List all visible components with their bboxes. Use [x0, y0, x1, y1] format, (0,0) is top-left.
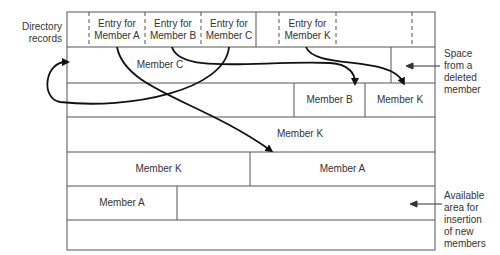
label-line: records [14, 33, 62, 45]
label-line: deleted [444, 72, 481, 84]
available-area-label: Available area for insertion of new memb… [444, 190, 486, 250]
entry-member-c: Entry for Member C [201, 18, 257, 42]
block-member-b: Member B [294, 94, 365, 106]
block-member-a-2: Member A [67, 197, 177, 209]
entry-line: Member K [279, 30, 336, 42]
block-member-a: Member A [250, 163, 435, 175]
block-member-c: Member C [100, 59, 220, 71]
entry-member-a: Entry for Member A [89, 18, 145, 42]
entry-line: Member A [89, 30, 145, 42]
label-line: member [444, 84, 481, 96]
entry-line: Entry for [201, 18, 257, 30]
entry-line: Entry for [279, 18, 336, 30]
label-line: Available [444, 190, 486, 202]
outer-box [67, 12, 435, 250]
label-line: insertion [444, 214, 486, 226]
block-member-k-2: Member K [260, 128, 340, 140]
entry-member-b: Entry for Member B [145, 18, 201, 42]
entry-line: Entry for [145, 18, 201, 30]
entry-line: Member B [145, 30, 201, 42]
entry-line: Entry for [89, 18, 145, 30]
block-member-k-3: Member K [67, 163, 250, 175]
label-line: Directory [14, 21, 62, 33]
label-line: from a [444, 60, 481, 72]
space-deleted-label: Space from a deleted member [444, 48, 481, 96]
label-line: area for [444, 202, 486, 214]
label-line: of new [444, 226, 486, 238]
label-line: members [444, 238, 486, 250]
block-member-k: Member K [365, 94, 435, 106]
label-line: Space [444, 48, 481, 60]
entry-member-k: Entry for Member K [279, 18, 336, 42]
directory-records-label: Directory records [14, 21, 62, 45]
entry-line: Member C [201, 30, 257, 42]
